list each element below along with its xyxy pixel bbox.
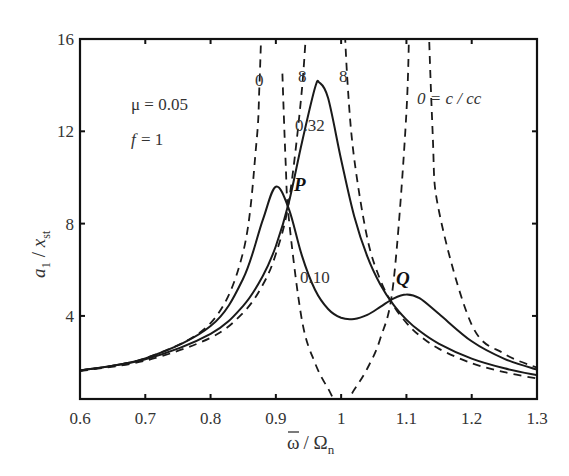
x-tick-label: 1 — [337, 409, 346, 428]
label-010: 0.10 — [300, 268, 330, 287]
series-line-6 — [343, 0, 537, 379]
x-tick-label: 1.1 — [396, 409, 417, 428]
y-tick-label: 4 — [66, 307, 75, 326]
label-032: 0.32 — [295, 116, 325, 135]
point-p-label: P — [293, 174, 306, 195]
x-tick-label: 0.7 — [135, 409, 157, 428]
annotation-f-value: = 1 — [141, 130, 163, 149]
x-tick-label: 1.3 — [526, 409, 547, 428]
y-tick-label: 16 — [57, 30, 74, 49]
label-inf-left: 8 — [298, 67, 307, 86]
y-axis-label: a1 / xst — [28, 230, 53, 278]
series-line-4 — [423, 0, 537, 368]
annotation-f-label: f — [131, 130, 138, 149]
svg-text:ω/ Ωn: ω/ Ωn — [287, 432, 335, 457]
x-label-omega: ω — [287, 432, 300, 453]
series-line-5 — [80, 0, 309, 371]
label-zero-right: 0 = c / cc — [417, 89, 482, 108]
chart: 0.60.70.80.911.11.21.3481216 μ = 0.05 f … — [0, 0, 569, 476]
x-tick-label: 0.9 — [265, 409, 286, 428]
label-inf-right: 8 — [339, 67, 348, 86]
x-axis-label: ω/ Ωn — [287, 432, 335, 457]
x-tick-label: 1.2 — [461, 409, 482, 428]
point-q-label: Q — [396, 268, 410, 289]
x-tick-label: 0.6 — [69, 409, 90, 428]
x-tick-label: 0.8 — [200, 409, 221, 428]
series-line-3 — [282, 0, 409, 408]
label-zero-left: 0 — [255, 71, 264, 90]
series-layer — [80, 0, 537, 408]
svg-text:a1 / xst: a1 / xst — [28, 230, 53, 278]
y-tick-label: 8 — [66, 215, 75, 234]
y-tick-label: 12 — [57, 122, 74, 141]
annotation-mu: μ = 0.05 — [131, 95, 188, 114]
